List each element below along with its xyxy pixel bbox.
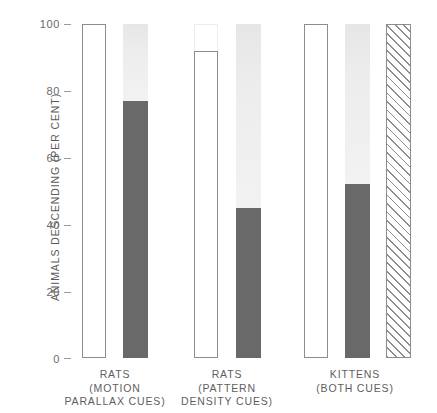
group-label-line: (PATTERN xyxy=(161,382,293,396)
bar-segment-light xyxy=(236,24,261,208)
group-label-line: DENSITY CUES) xyxy=(161,395,293,409)
bar-group2-split xyxy=(236,24,261,358)
tick-mark-80 xyxy=(64,91,71,92)
bar-segment-light xyxy=(123,24,148,101)
bar-segment-dark xyxy=(123,101,148,358)
bar-group3-split xyxy=(345,24,370,358)
bar-group3-hatched xyxy=(386,24,411,358)
group-label-line: RATS xyxy=(161,368,293,382)
bar-segment-dark xyxy=(345,184,370,358)
x-axis-group-label-kittens-both-cues: KITTENS (BOTH CUES) xyxy=(289,368,421,395)
tick-mark-100 xyxy=(64,24,71,25)
chart-figure: ANIMALS DESCENDING (PER CENT) 100 80 60 … xyxy=(0,0,437,413)
x-axis-group-label-rats-pattern-density: RATS (PATTERN DENSITY CUES) xyxy=(161,368,293,409)
group-label-line: KITTENS xyxy=(289,368,421,382)
bar-segment-dark xyxy=(236,208,261,358)
tick-mark-40 xyxy=(64,225,71,226)
tick-mark-60 xyxy=(64,158,71,159)
plot-area xyxy=(0,0,437,413)
tick-mark-0 xyxy=(64,358,71,359)
group-label-line: (BOTH CUES) xyxy=(289,382,421,396)
bar-group1-open xyxy=(82,24,106,358)
bar-group1-split xyxy=(123,24,148,358)
bar-segment-light xyxy=(345,24,370,184)
bar-group2-open xyxy=(194,51,218,358)
bar-group3-open xyxy=(304,24,328,358)
tick-mark-20 xyxy=(64,292,71,293)
